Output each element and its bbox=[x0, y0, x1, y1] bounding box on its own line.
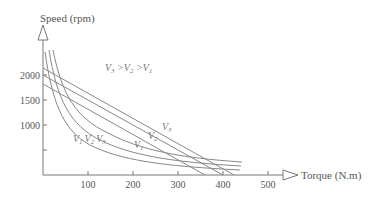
relation-annotation: V3 >V2 >V1 bbox=[105, 62, 152, 75]
x-tick-500: 500 bbox=[261, 179, 276, 190]
speed-torque-chart: 2000 1500 1000 100 200 300 400 500 Speed… bbox=[0, 0, 376, 198]
x-axis-arrow-icon bbox=[283, 170, 298, 180]
line-v2 bbox=[43, 75, 223, 175]
x-tick-100: 100 bbox=[81, 179, 96, 190]
x-tick-300: 300 bbox=[171, 179, 186, 190]
line-label-v3: V3 bbox=[162, 121, 172, 134]
curve-labels: V1V2V3 bbox=[73, 133, 106, 146]
x-tick-400: 400 bbox=[216, 179, 231, 190]
y-tick-1000: 1000 bbox=[20, 120, 40, 131]
y-axis-arrow-icon bbox=[38, 25, 48, 40]
x-ticks bbox=[88, 171, 268, 175]
y-tick-1500: 1500 bbox=[20, 95, 40, 106]
x-axis-title: Torque (N.m) bbox=[301, 169, 362, 182]
y-tick-2000: 2000 bbox=[20, 70, 40, 81]
y-axis-title: Speed (rpm) bbox=[40, 12, 95, 25]
x-tick-200: 200 bbox=[126, 179, 141, 190]
line-label-v1: V1 bbox=[134, 139, 144, 152]
